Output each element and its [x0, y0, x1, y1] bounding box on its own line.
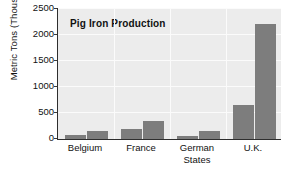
- bar: [233, 105, 254, 139]
- x-axis-tick-label: U.K.: [225, 142, 281, 154]
- y-axis-tick-mark: [54, 138, 57, 139]
- y-axis-tick-label: 2500: [22, 2, 54, 14]
- group-separator: [170, 8, 171, 139]
- x-axis-tick-label: France: [113, 142, 169, 154]
- y-axis-tick-label: 2000: [22, 28, 54, 40]
- group-separator: [114, 8, 115, 139]
- group-separator: [226, 8, 227, 139]
- chart-figure: Metric Tons (Thousands) 0500100015002000…: [0, 0, 286, 176]
- bar: [199, 131, 220, 139]
- y-axis-tick-label: 0: [22, 132, 54, 144]
- x-axis-tick-label: GermanStates: [169, 142, 225, 165]
- x-axis-tick-labels: BelgiumFranceGermanStatesU.K.: [57, 142, 281, 174]
- y-axis-tick-mark: [54, 60, 57, 61]
- y-axis-tick-mark: [54, 8, 57, 9]
- y-axis-title: Metric Tons (Thousands): [8, 0, 22, 90]
- y-axis-tick-label: 1000: [22, 80, 54, 92]
- plot-area: Pig Iron Production: [57, 8, 281, 140]
- y-axis-tick-mark: [54, 34, 57, 35]
- y-axis-tick-label: 1500: [22, 54, 54, 66]
- bar: [65, 135, 86, 139]
- bar: [121, 129, 142, 139]
- y-axis-tick-mark: [54, 112, 57, 113]
- y-axis-tick-labels: 05001000150020002500: [22, 8, 54, 140]
- x-axis-tick-label: Belgium: [57, 142, 113, 154]
- chart-title: Pig Iron Production: [70, 18, 166, 29]
- y-axis-tick-label: 500: [22, 106, 54, 118]
- bar: [87, 131, 108, 139]
- bar: [177, 136, 198, 139]
- y-axis-tick-mark: [54, 86, 57, 87]
- bar: [255, 24, 276, 139]
- bar: [143, 121, 164, 139]
